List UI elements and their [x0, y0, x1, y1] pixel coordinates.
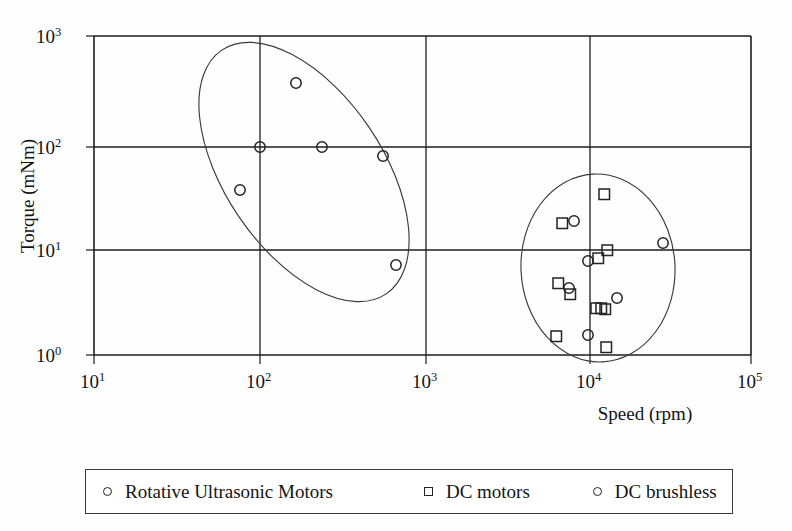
x-axis-ticks: [94, 355, 751, 364]
legend-label: DC motors: [446, 482, 530, 501]
legend-label: Rotative Ultrasonic Motors: [125, 482, 333, 501]
data-point: [391, 260, 401, 270]
xtick-label-1e1: 101: [80, 370, 105, 392]
legend-item-rotative-ultrasonic-motors: Rotative Ultrasonic Motors: [100, 482, 333, 501]
chart-page: 103 102 101 100 101 102 103 104 105 Torq…: [0, 0, 792, 531]
data-point: [569, 216, 579, 226]
vertical-gridlines: [260, 36, 590, 355]
legend-item-dc-brushless: DC brushless: [590, 482, 717, 501]
data-point: [658, 238, 668, 248]
data-point: [235, 185, 245, 195]
cluster-ellipse-dc: [516, 170, 680, 366]
ytick-label-1e0: 100: [36, 344, 61, 366]
square-marker-icon: [421, 484, 437, 500]
ytick-label-1e3: 103: [36, 25, 61, 47]
data-point: [583, 330, 593, 340]
data-point: [557, 218, 568, 229]
data-point: [612, 293, 622, 303]
series-dc-motors: [551, 189, 613, 353]
plot-frame: [94, 36, 751, 355]
ytick-label-1e1: 101: [36, 239, 61, 261]
xtick-label-1e5: 105: [737, 370, 762, 392]
xtick-label-1e4: 104: [576, 370, 602, 392]
scatter-plot: 103 102 101 100 101 102 103 104 105 Torq…: [0, 0, 792, 531]
data-point: [551, 331, 562, 342]
data-point: [291, 78, 301, 88]
data-point: [583, 256, 593, 266]
series-dc-brushless: [564, 216, 668, 340]
x-axis-title: Speed (rpm): [598, 403, 692, 425]
circle-marker-icon: [100, 484, 116, 500]
xtick-label-1e3: 103: [412, 370, 437, 392]
xtick-label-1e2: 102: [246, 370, 271, 392]
ytick-label-1e2: 102: [36, 136, 61, 158]
chart-legend: Rotative Ultrasonic Motors DC motors DC …: [85, 469, 733, 514]
y-axis-title: Torque (mNm): [17, 139, 39, 253]
data-point: [553, 278, 564, 289]
y-axis-ticks: [86, 36, 94, 355]
cluster-ellipse-ultrasonic: [156, 6, 451, 338]
legend-label: DC brushless: [615, 482, 717, 501]
legend-item-dc-motors: DC motors: [421, 482, 530, 501]
horizontal-gridlines: [94, 147, 751, 250]
data-point: [601, 342, 612, 353]
circle-marker-icon: [590, 484, 606, 500]
data-point: [564, 283, 574, 293]
data-point: [599, 189, 610, 200]
